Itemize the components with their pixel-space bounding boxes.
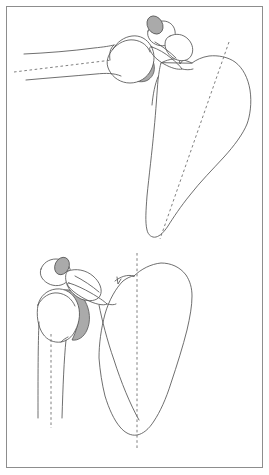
lower-humeral-head xyxy=(37,289,79,342)
figure-root: Shoulder girdle line drawing — two posit… xyxy=(0,0,269,475)
shoulder-anatomy-figure: Shoulder girdle line drawing — two posit… xyxy=(0,0,269,475)
